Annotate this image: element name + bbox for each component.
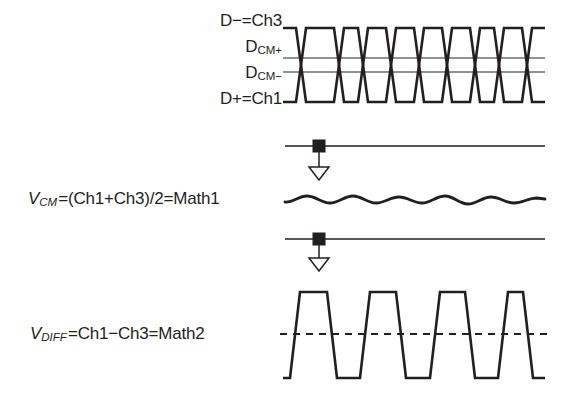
bottom-panel-waveform-svg — [0, 0, 578, 400]
figure-canvas: D−=Ch3 DCM+ DCM− D+=Ch1 VCM =(Ch1+Ch3)/2… — [0, 0, 578, 400]
